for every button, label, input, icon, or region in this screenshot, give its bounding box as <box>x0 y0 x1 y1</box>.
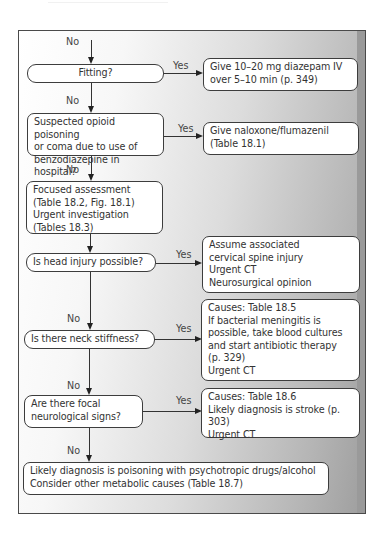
arrow-down-icon <box>87 246 93 253</box>
node-neck-stiffness: Is there neck stiffness? <box>24 330 155 349</box>
edge-label-yes: Yes <box>173 60 189 71</box>
edge-label-yes: Yes <box>176 395 192 406</box>
node-focal-signs-action: Causes: Table 18.6 Likely diagnosis is s… <box>201 388 360 438</box>
connector-fitting-no <box>91 83 92 106</box>
node-assessment: Focused assessment (Table 18.2, Fig. 18.… <box>26 181 163 234</box>
arrow-down-icon <box>86 455 92 462</box>
arrow-down-icon <box>88 57 94 64</box>
top-rule <box>48 2 168 3</box>
edge-label-no: No <box>67 380 80 391</box>
edge-label-yes: Yes <box>178 123 194 134</box>
arrow-right-icon <box>195 260 202 266</box>
arrow-down-icon <box>88 106 94 113</box>
connector-entry <box>91 40 92 58</box>
edge-label-no: No <box>67 445 80 456</box>
edge-label-no-entry: No <box>66 36 79 47</box>
node-neck-stiffness-action: Causes: Table 18.5 If bacterial meningit… <box>201 299 360 381</box>
connector-opioid-no <box>91 156 92 174</box>
edge-label-yes: Yes <box>176 323 192 334</box>
node-opioid: Suspected opioid poisoning or coma due t… <box>27 113 164 156</box>
node-final-diagnosis: Likely diagnosis is poisoning with psych… <box>23 462 329 495</box>
node-head-injury: Is head injury possible? <box>26 253 156 272</box>
arrow-right-icon <box>196 133 203 139</box>
edge-label-no: No <box>66 95 79 106</box>
connector-focal-signs-no <box>89 428 90 455</box>
arrow-down-icon <box>88 174 94 181</box>
node-fitting: Fitting? <box>27 64 164 83</box>
connector-focal-signs-yes <box>143 411 195 412</box>
arrow-down-icon <box>87 323 93 330</box>
node-naloxone: Give naloxone/flumazenil (Table 18.1) <box>203 122 359 155</box>
node-head-injury-action: Assume associated cervical spine injury … <box>202 236 360 293</box>
arrow-down-icon <box>86 388 92 395</box>
arrow-right-icon <box>196 70 203 76</box>
edge-label-no: No <box>66 164 79 175</box>
edge-label-no: No <box>67 313 80 324</box>
connector-head-injury-no <box>90 272 91 323</box>
connector-head-injury-yes <box>156 263 195 264</box>
connector-neck-stiffness-yes <box>155 339 195 340</box>
connector-fitting-yes <box>164 73 196 74</box>
node-diazepam: Give 10–20 mg diazepam IV over 5–10 min … <box>203 58 358 91</box>
connector-opioid-yes <box>164 136 196 137</box>
node-focal-signs: Are there focal neurological signs? <box>24 395 143 428</box>
edge-label-yes: Yes <box>176 249 192 260</box>
connector-neck-stiffness-no <box>89 349 90 388</box>
